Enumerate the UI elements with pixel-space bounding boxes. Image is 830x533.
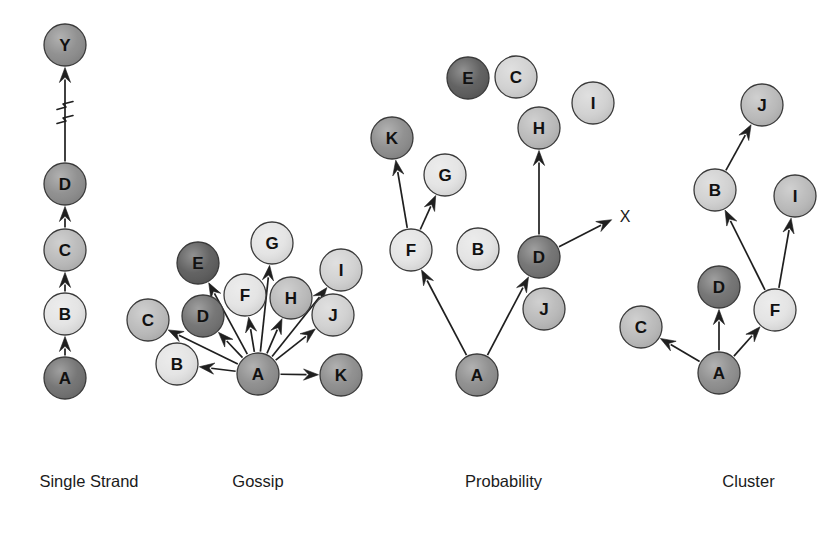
graph-node-pr-G[interactable]: G bbox=[424, 154, 466, 196]
edge-go-A-to-go-D bbox=[218, 332, 242, 357]
node-shading bbox=[45, 358, 86, 399]
edge-cl-A-to-cl-D bbox=[713, 310, 724, 351]
graph-node-go-E[interactable]: E bbox=[177, 242, 219, 284]
graph-node-go-I[interactable]: I bbox=[320, 249, 362, 291]
node-shading bbox=[448, 58, 489, 99]
edge-line bbox=[559, 225, 601, 247]
node-shading bbox=[178, 243, 219, 284]
diagram-canvas: YDCBAABCDEFGHIJKAFKGBECHIDJACDFBIJ X Sin… bbox=[0, 0, 830, 533]
graph-node-go-G[interactable]: G bbox=[251, 222, 293, 264]
graph-node-pr-H[interactable]: H bbox=[518, 107, 560, 149]
graph-node-pr-D[interactable]: D bbox=[518, 236, 560, 278]
node-shading bbox=[252, 223, 293, 264]
open-edge-pr-D-0 bbox=[559, 220, 612, 247]
graph-node-cl-J[interactable]: J bbox=[741, 84, 783, 126]
node-shading bbox=[699, 267, 740, 308]
nodes-layer: YDCBAABCDEFGHIJKAFKGBECHIDJACDFBIJ bbox=[44, 24, 816, 399]
node-shading bbox=[45, 25, 86, 66]
edge-line bbox=[779, 230, 789, 288]
open-edges-layer: X bbox=[559, 208, 631, 247]
edge-line bbox=[671, 345, 700, 362]
graph-node-pr-B[interactable]: B bbox=[457, 228, 499, 270]
graph-node-ss-C[interactable]: C bbox=[44, 229, 86, 271]
node-shading bbox=[183, 296, 224, 337]
graph-node-pr-C[interactable]: C bbox=[495, 56, 537, 98]
node-shading bbox=[45, 230, 86, 271]
caption-title: Cluster bbox=[661, 470, 830, 493]
node-shading bbox=[755, 290, 796, 331]
node-shading bbox=[238, 354, 279, 395]
graph-node-cl-F[interactable]: F bbox=[754, 289, 796, 331]
edge-line bbox=[734, 336, 752, 356]
graph-node-go-B[interactable]: B bbox=[156, 343, 198, 385]
caption-single-strand: Single Strand Each tells one other. bbox=[14, 424, 164, 533]
edge-line bbox=[487, 288, 522, 356]
graph-node-cl-A[interactable]: A bbox=[698, 352, 740, 394]
graph-node-cl-C[interactable]: C bbox=[620, 306, 662, 348]
graph-node-ss-B[interactable]: B bbox=[44, 293, 86, 335]
node-shading bbox=[321, 250, 362, 291]
node-shading bbox=[519, 108, 560, 149]
edge-ss-D-to-ss-Y bbox=[57, 68, 73, 162]
graph-node-pr-I[interactable]: I bbox=[572, 82, 614, 124]
edge-pr-A-to-pr-F bbox=[422, 270, 467, 355]
arrowhead-icon bbox=[422, 270, 434, 286]
caption-gossip: Gossip One tells all. bbox=[183, 424, 333, 533]
graph-node-go-F[interactable]: F bbox=[224, 274, 266, 316]
graph-node-pr-E[interactable]: E bbox=[447, 57, 489, 99]
graph-node-go-C[interactable]: C bbox=[127, 299, 169, 341]
graph-node-go-A[interactable]: A bbox=[237, 353, 279, 395]
edge-line bbox=[420, 206, 430, 229]
node-shading bbox=[271, 278, 312, 319]
node-shading bbox=[391, 230, 432, 271]
node-shading bbox=[157, 344, 198, 385]
open-edge-label: X bbox=[620, 208, 631, 225]
caption-probability: Probability Each randomly tells others. bbox=[416, 424, 591, 533]
edge-pr-D-to-pr-H bbox=[533, 151, 544, 235]
graph-node-cl-I[interactable]: I bbox=[774, 175, 816, 217]
graph-node-go-K[interactable]: K bbox=[320, 354, 362, 396]
arrowhead-icon bbox=[596, 220, 612, 232]
graph-node-go-J[interactable]: J bbox=[312, 294, 354, 336]
graph-node-pr-K[interactable]: K bbox=[371, 117, 413, 159]
node-shading bbox=[313, 295, 354, 336]
graph-node-pr-J[interactable]: J bbox=[523, 288, 565, 330]
node-shading bbox=[458, 229, 499, 270]
graph-node-go-D[interactable]: D bbox=[182, 295, 224, 337]
edge-ss-A-to-ss-B bbox=[59, 337, 70, 356]
graph-node-go-H[interactable]: H bbox=[270, 277, 312, 319]
graph-node-pr-F[interactable]: F bbox=[390, 229, 432, 271]
edge-go-A-to-go-F bbox=[246, 317, 257, 352]
edge-pr-F-to-pr-K bbox=[393, 160, 407, 228]
graph-node-pr-A[interactable]: A bbox=[456, 354, 498, 396]
edge-go-A-to-go-K bbox=[281, 369, 319, 380]
node-shading bbox=[225, 275, 266, 316]
node-shading bbox=[519, 237, 560, 278]
node-shading bbox=[45, 294, 86, 335]
edge-cl-A-to-cl-F bbox=[734, 327, 760, 356]
node-shading bbox=[695, 170, 736, 211]
node-shading bbox=[775, 176, 816, 217]
caption-title: Gossip bbox=[183, 470, 333, 493]
graph-node-ss-Y[interactable]: Y bbox=[44, 24, 86, 66]
graph-node-ss-D[interactable]: D bbox=[44, 163, 86, 205]
caption-cluster: Cluster Some tell selected others; most … bbox=[661, 424, 830, 533]
graph-node-cl-B[interactable]: B bbox=[694, 169, 736, 211]
graph-node-cl-D[interactable]: D bbox=[698, 266, 740, 308]
edge-line bbox=[251, 329, 255, 352]
edge-line bbox=[427, 281, 466, 356]
edge-line bbox=[398, 172, 407, 228]
node-shading bbox=[524, 289, 565, 330]
node-shading bbox=[128, 300, 169, 341]
caption-title: Single Strand bbox=[14, 470, 164, 493]
node-shading bbox=[621, 307, 662, 348]
node-shading bbox=[742, 85, 783, 126]
node-shading bbox=[496, 57, 537, 98]
arrowhead-icon bbox=[660, 338, 676, 350]
edge-line bbox=[267, 330, 277, 354]
node-shading bbox=[372, 118, 413, 159]
node-shading bbox=[45, 164, 86, 205]
edge-cl-A-to-cl-C bbox=[660, 338, 699, 361]
node-shading bbox=[457, 355, 498, 396]
graph-node-ss-A[interactable]: A bbox=[44, 357, 86, 399]
